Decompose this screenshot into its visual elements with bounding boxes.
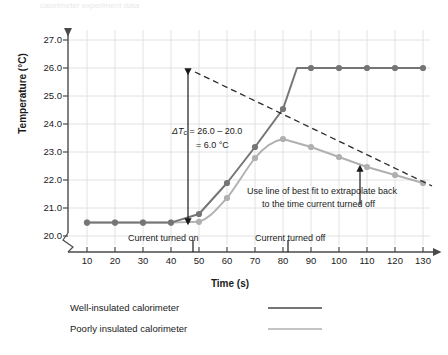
y-axis <box>63 32 73 252</box>
grid-horizontal <box>68 40 430 236</box>
delta-t-annotation-line2: = 6.0 °C <box>196 140 229 150</box>
legend-item-well-insulated: Well-insulated calorimeter <box>70 302 179 313</box>
delta-t-values: = 26.0 – 20.0 <box>187 126 242 136</box>
current-turned-on-label: Current turned on <box>128 233 199 243</box>
y-tick-marks <box>63 40 68 236</box>
delta-t-symbol: ΔT <box>172 126 184 136</box>
chart-canvas <box>0 0 448 355</box>
legend-item-poorly-insulated: Poorly insulated calorimeter <box>70 323 187 334</box>
grid-vertical <box>87 30 423 245</box>
best-fit-note-line1: Use line of best fit to extrapolate back <box>247 186 397 196</box>
x-tick-marks <box>87 247 423 252</box>
best-fit-note-line2: to the time current turned off <box>262 199 375 209</box>
current-turned-off-label: Current turned off <box>255 233 325 243</box>
delta-t-annotation-line1: ΔTc = 26.0 – 20.0 <box>172 126 242 136</box>
